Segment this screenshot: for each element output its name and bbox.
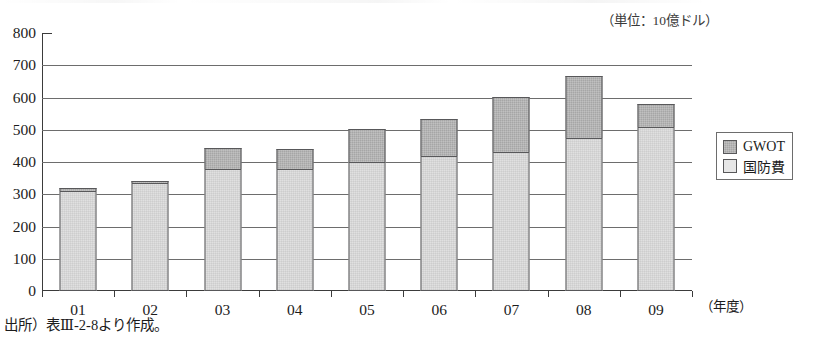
- y-tick-label-0: 0: [28, 283, 36, 299]
- x-tick: [331, 291, 332, 297]
- x-tick-label-07: 07: [504, 301, 520, 319]
- chart-legend: GWOT 国防費: [716, 132, 793, 180]
- y-tick-label-300: 300: [13, 187, 36, 203]
- unit-caption: （単位：10億ドル）: [601, 9, 719, 29]
- x-tick: [114, 291, 115, 297]
- bar-segment-defense[interactable]: [276, 169, 313, 291]
- bar-stack[interactable]: [60, 188, 97, 291]
- y-tick-label-500: 500: [13, 122, 36, 138]
- x-tick: [475, 291, 476, 297]
- bar-segment-defense[interactable]: [637, 127, 674, 291]
- x-tick-label-03: 03: [215, 301, 231, 319]
- bar-slot: [548, 33, 620, 291]
- bar-segment-defense[interactable]: [348, 162, 385, 291]
- bar-slot: [475, 33, 547, 291]
- bar-stack[interactable]: [493, 97, 530, 291]
- bar-slot: [186, 33, 258, 291]
- bar-slot: [620, 33, 692, 291]
- bar-stack[interactable]: [348, 129, 385, 291]
- bar-segment-gwot[interactable]: [637, 104, 674, 127]
- y-tick-label-100: 100: [13, 251, 36, 267]
- legend-label-defense: 国防費: [743, 156, 785, 176]
- plot-area: 0100200300400500600700800 01020304050607…: [42, 33, 692, 291]
- bar-slot: [114, 33, 186, 291]
- x-tick-label-06: 06: [431, 301, 447, 319]
- legend-item-defense: 国防費: [723, 156, 785, 175]
- x-tick: [42, 291, 43, 297]
- bar-segment-gwot[interactable]: [204, 148, 241, 169]
- x-tick-label-05: 05: [359, 301, 375, 319]
- bar-segment-gwot[interactable]: [565, 76, 602, 138]
- figure-container: （単位：10億ドル） 0100200300400500600700800 010…: [0, 0, 822, 337]
- bar-series-group: [42, 33, 692, 291]
- bar-segment-defense[interactable]: [204, 169, 241, 291]
- y-tick-label-400: 400: [13, 154, 36, 170]
- x-tick: [548, 291, 549, 297]
- source-note: 出所）表Ⅲ-2-8より作成。: [4, 313, 168, 334]
- bar-slot: [259, 33, 331, 291]
- x-tick: [186, 291, 187, 297]
- x-tick: [403, 291, 404, 297]
- bar-segment-defense[interactable]: [132, 183, 169, 291]
- legend-item-gwot: GWOT: [723, 137, 785, 156]
- cut-off-title: [120, 0, 640, 5]
- bar-slot: [42, 33, 114, 291]
- x-tick: [620, 291, 621, 297]
- y-tick-label-600: 600: [13, 90, 36, 106]
- x-tick-label-04: 04: [287, 301, 303, 319]
- bar-segment-defense[interactable]: [421, 156, 458, 291]
- legend-label-gwot: GWOT: [743, 139, 785, 155]
- x-tick-label-09: 09: [648, 301, 664, 319]
- legend-swatch-defense: [723, 159, 737, 173]
- bar-segment-gwot[interactable]: [493, 97, 530, 152]
- bar-segment-defense[interactable]: [60, 191, 97, 291]
- x-axis-ticks: 010203040506070809: [42, 291, 692, 298]
- x-axis-title: （年度）: [700, 295, 752, 315]
- bar-stack[interactable]: [637, 104, 674, 291]
- bar-stack[interactable]: [565, 76, 602, 291]
- bar-segment-gwot[interactable]: [421, 119, 458, 156]
- bar-stack[interactable]: [421, 119, 458, 291]
- bar-slot: [403, 33, 475, 291]
- bar-segment-defense[interactable]: [565, 138, 602, 291]
- x-tick: [692, 291, 693, 297]
- legend-swatch-gwot: [723, 140, 737, 154]
- bar-stack[interactable]: [204, 148, 241, 291]
- y-tick-label-800: 800: [13, 25, 36, 41]
- y-tick-label-700: 700: [13, 58, 36, 74]
- bar-stack[interactable]: [276, 149, 313, 291]
- y-tick-label-200: 200: [13, 219, 36, 235]
- bar-stack[interactable]: [132, 181, 169, 291]
- bar-segment-gwot[interactable]: [348, 129, 385, 162]
- bar-slot: [331, 33, 403, 291]
- x-tick-label-08: 08: [576, 301, 592, 319]
- x-tick: [259, 291, 260, 297]
- bar-segment-defense[interactable]: [493, 152, 530, 291]
- bar-segment-gwot[interactable]: [276, 149, 313, 169]
